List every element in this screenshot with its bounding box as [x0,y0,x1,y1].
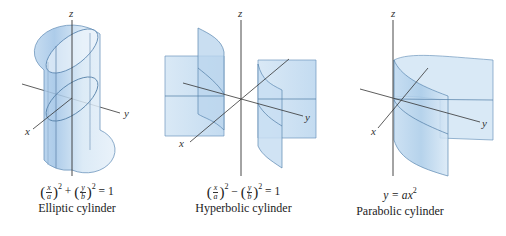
parabolic-equation: y = ax2 [350,184,450,202]
elliptic-equation: (xa)2 + (yb)2 = 1 [22,180,132,201]
elliptic-caption: (xa)2 + (yb)2 = 1 Elliptic cylinder [22,180,132,215]
z-axis-label: z [237,7,243,19]
hyperbolic-equation: (xa)2 − (yb)2 = 1 [186,180,301,201]
elliptic-cylinder-figure: z y x [22,7,129,176]
parabolic-name: Parabolic cylinder [350,204,450,218]
hyperbolic-caption: (xa)2 − (yb)2 = 1 Hyperbolic cylinder [186,180,301,215]
parabolic-caption: y = ax2 Parabolic cylinder [350,184,450,218]
x-axis-label: x [370,125,376,137]
x-axis-label: x [178,137,184,149]
y-axis-label: y [123,107,129,119]
parabolic-cylinder-figure: z y x [360,7,493,176]
hyperbolic-name: Hyperbolic cylinder [186,201,301,215]
z-axis-label: z [390,7,396,19]
z-axis-label: z [68,7,74,19]
x-axis-label: x [24,125,30,137]
hyperbolic-cylinder-figure: z y x [165,7,316,176]
y-axis-label: y [481,117,487,129]
y-axis-label: y [304,111,310,123]
elliptic-name: Elliptic cylinder [22,201,132,215]
